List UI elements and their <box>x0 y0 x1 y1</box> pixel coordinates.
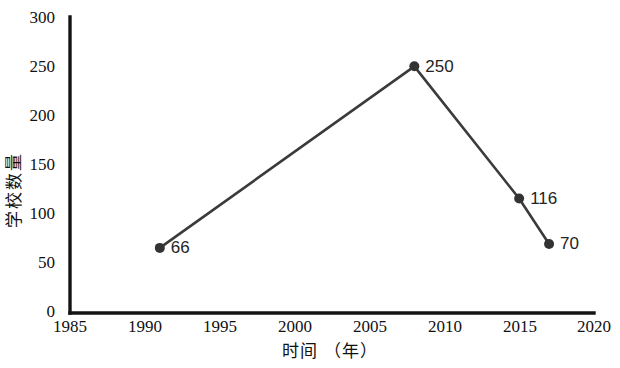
x-tick-label: 1995 <box>203 317 237 336</box>
data-point-label: 116 <box>530 189 557 208</box>
x-tick-label: 2010 <box>428 317 462 336</box>
data-point-marker <box>155 243 165 253</box>
data-point-marker <box>514 194 524 204</box>
x-tick-label: 2020 <box>577 317 611 336</box>
x-tick-label: 1985 <box>53 317 87 336</box>
y-tick-label: 250 <box>30 57 56 76</box>
data-point-label: 250 <box>425 57 453 76</box>
x-tick-label: 2005 <box>353 317 387 336</box>
data-point-label: 66 <box>171 238 190 257</box>
data-point-marker <box>409 61 419 71</box>
y-tick-label: 50 <box>38 253 55 272</box>
y-tick-label: 300 <box>30 8 56 27</box>
y-tick-label: 150 <box>30 155 56 174</box>
chart-canvas: 学校数量 0 50 100 150 200 250 300 1985 1990 … <box>0 0 620 368</box>
x-tick-label: 2000 <box>278 317 312 336</box>
x-tick-label: 1990 <box>128 317 162 336</box>
x-tick-label: 2015 <box>503 317 537 336</box>
line-chart: 学校数量 0 50 100 150 200 250 300 1985 1990 … <box>0 0 620 368</box>
x-axis-title: 时间 （年） <box>282 341 378 361</box>
data-point-label: 70 <box>560 234 579 253</box>
y-tick-label: 200 <box>30 106 56 125</box>
y-tick-label: 100 <box>30 204 56 223</box>
y-axis-title: 学校数量 <box>4 152 24 228</box>
data-point-marker <box>544 239 554 249</box>
